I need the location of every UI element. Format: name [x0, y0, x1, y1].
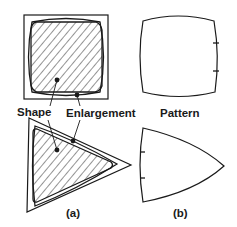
shape-label: Shape	[17, 107, 52, 119]
triangle-pattern-outline	[140, 128, 224, 202]
square-pattern-group	[140, 16, 219, 97]
triangle-pattern-group	[140, 128, 224, 202]
pattern-label: Pattern	[160, 108, 200, 120]
panel-b-label: (b)	[173, 208, 188, 220]
square-shape-hatched	[31, 22, 102, 92]
enlargement-label: Enlargement	[66, 108, 136, 120]
panel-a-label: (a)	[66, 208, 80, 220]
triangle-group	[27, 118, 131, 212]
square-pattern-outline	[140, 16, 217, 97]
pattern-enlargement-diagram: Shape Enlargement Pattern (a) (b)	[0, 0, 237, 227]
triangle-enlargement-dot	[71, 139, 76, 144]
triangle-shape-dot	[55, 148, 60, 153]
square-group	[24, 15, 108, 99]
